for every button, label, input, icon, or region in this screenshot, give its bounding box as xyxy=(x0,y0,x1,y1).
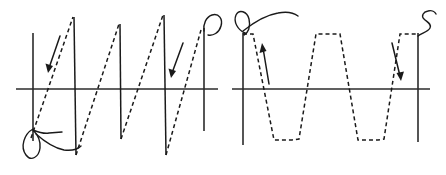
right-arrow-1-head xyxy=(260,43,267,53)
waveform-figure xyxy=(0,0,446,175)
left-plot-group xyxy=(16,15,222,159)
left-plot-slope-arrow-1 xyxy=(46,36,61,73)
right-plot-slope-arrow-1 xyxy=(260,43,270,84)
left-arrow-2-shaft xyxy=(172,43,183,73)
right-plot-origin-tail-icon xyxy=(243,12,298,31)
right-arrow-2-head xyxy=(397,72,405,82)
right-plot-group xyxy=(232,11,436,145)
left-wave-drop-3 xyxy=(164,15,166,155)
left-wave-drop-1 xyxy=(74,17,76,155)
left-plot-end-hook-icon xyxy=(204,15,222,36)
right-plot-origin-loop-icon xyxy=(235,12,250,35)
left-arrow-1-shaft xyxy=(49,36,60,68)
waveform-figure-canvas xyxy=(0,0,446,175)
left-wave-ramp-1 xyxy=(31,17,73,138)
left-wave-drop-2 xyxy=(120,24,121,139)
right-wave-path xyxy=(243,34,418,140)
right-arrow-2-shaft xyxy=(392,43,400,76)
right-arrow-1-shaft xyxy=(263,48,269,84)
left-arrow-1-head xyxy=(46,64,54,74)
left-arrow-2-head xyxy=(169,69,177,79)
left-plot-origin-loop-icon xyxy=(23,129,62,158)
left-wave-ramp-4 xyxy=(166,30,201,155)
left-plot-slope-arrow-2 xyxy=(169,43,184,78)
right-plot-end-squiggle-icon xyxy=(418,11,436,36)
left-wave-ramp-3 xyxy=(121,15,163,139)
left-plot-origin-tail-icon xyxy=(36,134,81,150)
